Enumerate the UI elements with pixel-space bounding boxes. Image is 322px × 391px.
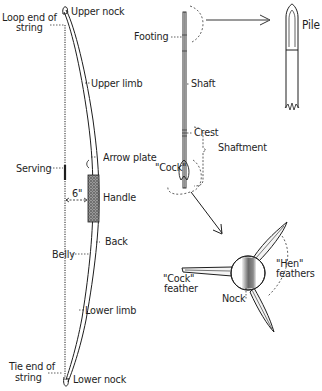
- label-cock-feather-line2: feather: [164, 283, 198, 294]
- label-footing: Footing: [134, 31, 168, 42]
- label-brace-height: 6": [72, 188, 82, 199]
- nock-detail: [182, 222, 288, 332]
- label-shaftment: Shaftment: [218, 142, 267, 153]
- label-pile: Pile: [302, 20, 320, 31]
- label-handle: Handle: [103, 192, 136, 203]
- label-hen-line2: feathers: [276, 268, 315, 279]
- diagram-drawing: [0, 0, 322, 391]
- arrow-plate: [87, 160, 89, 168]
- label-back: Back: [105, 236, 128, 247]
- label-lower-nock: Lower nock: [73, 374, 126, 385]
- label-arrow-plate: Arrow plate: [103, 152, 157, 163]
- label-upper-limb: Upper limb: [91, 78, 142, 89]
- label-belly: Belly: [52, 249, 75, 260]
- label-lower-limb: Lower limb: [85, 305, 136, 316]
- label-loop-end-line2: string: [16, 22, 43, 33]
- label-shaft: Shaft: [191, 78, 215, 89]
- label-cock: "Cock": [155, 162, 186, 173]
- archery-diagram: Upper nock Loop end of string Upper limb…: [0, 0, 322, 391]
- label-nock: Nock: [222, 293, 245, 304]
- pile-detail: [285, 4, 299, 110]
- label-tie-end-line2: string: [15, 372, 42, 383]
- label-crest: Crest: [194, 127, 218, 138]
- label-upper-nock: Upper nock: [71, 6, 124, 17]
- handle-grip: [88, 175, 99, 222]
- label-serving: Serving: [16, 163, 51, 174]
- arrow: [168, 6, 270, 234]
